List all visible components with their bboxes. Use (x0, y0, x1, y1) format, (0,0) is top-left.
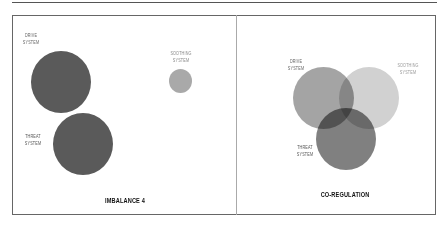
label-line: THREAT (23, 133, 44, 140)
panel-title: CO-REGULATION (317, 190, 373, 199)
drive-system-label: DRIVE SYSTEM (20, 32, 43, 46)
threat-system-circle (316, 108, 376, 170)
panel-title: IMBALANCE 4 (101, 196, 150, 205)
drive-system-circle (31, 51, 91, 113)
soothing-system-label: SOOTHING SYSTEM (396, 62, 420, 76)
top-rule (12, 2, 437, 3)
label-line: SYSTEM (396, 69, 420, 76)
drive-system-label: DRIVE SYSTEM (285, 58, 308, 72)
soothing-system-label: SOOTHING SYSTEM (169, 50, 193, 64)
soothing-system-circle (169, 69, 192, 93)
label-line: SYSTEM (295, 151, 316, 158)
label-line: DRIVE (20, 32, 43, 39)
label-line: SYSTEM (20, 39, 43, 46)
threat-system-label: THREAT SYSTEM (23, 133, 44, 147)
label-line: SYSTEM (23, 140, 44, 147)
threat-system-label: THREAT SYSTEM (295, 144, 316, 158)
label-line: SOOTHING (396, 62, 420, 69)
threat-system-circle (53, 113, 113, 175)
label-line: THREAT (295, 144, 316, 151)
label-line: SYSTEM (285, 65, 308, 72)
panel-divider (236, 15, 237, 215)
label-line: SYSTEM (169, 57, 193, 64)
label-line: DRIVE (285, 58, 308, 65)
label-line: SOOTHING (169, 50, 193, 57)
